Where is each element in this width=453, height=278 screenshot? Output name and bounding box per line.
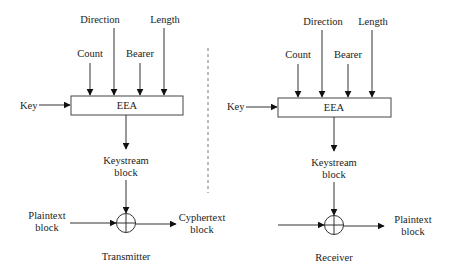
plaintext-output-label-line2: block <box>401 226 425 237</box>
xor-icon <box>117 214 136 233</box>
cyphertext-output-label-line1: Cyphertext <box>179 212 226 223</box>
bearer-label: Bearer <box>126 48 154 59</box>
plaintext-input-label-line1: Plaintext <box>28 210 65 221</box>
xor-icon <box>325 216 344 235</box>
length-label: Length <box>358 16 388 27</box>
direction-label: Direction <box>80 14 120 25</box>
plaintext-output-label-line1: Plaintext <box>394 214 431 225</box>
transmitter-title: Transmitter <box>102 251 151 262</box>
keystream-label-line1: Keystream <box>103 155 148 166</box>
key-label: Key <box>227 101 245 112</box>
key-label: Key <box>20 100 38 111</box>
count-label: Count <box>285 49 311 60</box>
eea-encryption-diagram: Direction Length Count Bearer Key EEA Ke… <box>0 0 453 278</box>
bearer-label: Bearer <box>334 49 362 60</box>
keystream-label-line1: Keystream <box>311 157 356 168</box>
length-label: Length <box>150 14 180 25</box>
count-label: Count <box>77 48 103 59</box>
transmitter-section: Direction Length Count Bearer Key EEA Ke… <box>20 14 225 262</box>
cyphertext-output-label-line2: block <box>190 224 214 235</box>
eea-label: EEA <box>117 100 138 111</box>
receiver-section: Direction Length Count Bearer Key EEA Ke… <box>227 16 432 263</box>
plaintext-input-label-line2: block <box>35 222 59 233</box>
keystream-label-line2: block <box>114 167 138 178</box>
receiver-title: Receiver <box>315 252 353 263</box>
direction-label: Direction <box>303 16 343 27</box>
eea-label: EEA <box>324 102 345 113</box>
keystream-label-line2: block <box>322 169 346 180</box>
